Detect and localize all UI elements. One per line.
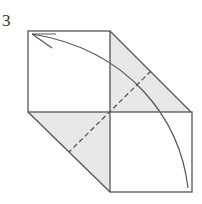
- fold-diagram: [0, 0, 202, 204]
